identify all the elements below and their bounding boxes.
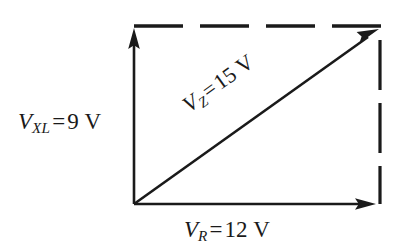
label-vxl-operator: = [50,109,67,134]
phasor-diagram: VXL=9 V VR=12 V VZ=15 V [0,0,395,251]
label-vxl-value: 9 [67,109,79,134]
label-vr: VR=12 V [184,218,270,243]
label-vr-unit: V [253,217,270,242]
label-vxl-subscript: XL [32,119,50,136]
label-vr-subscript: R [198,227,207,244]
label-vxl-unit: V [84,109,101,134]
label-vxl-symbol: V [18,109,32,134]
label-vr-operator: = [208,217,225,242]
label-vr-value: 12 [225,217,248,242]
label-vr-symbol: V [184,217,198,242]
resultant-phasor-arrowhead [357,29,379,43]
label-vxl: VXL=9 V [18,110,101,135]
